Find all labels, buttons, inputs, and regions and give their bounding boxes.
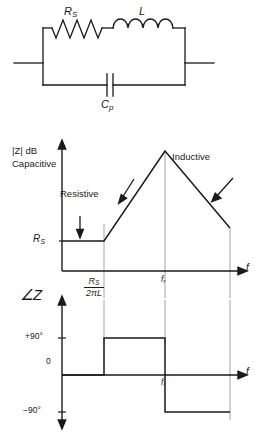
arrow-capacitive-slope-head bbox=[212, 193, 221, 202]
resistor-label: RS bbox=[64, 6, 77, 19]
inductor-label: L bbox=[139, 6, 145, 18]
phase-plot bbox=[58, 296, 247, 429]
resistor-symbol bbox=[52, 20, 102, 38]
magnitude-y-axis-arrow bbox=[58, 140, 65, 149]
magnitude-axes bbox=[58, 140, 247, 275]
inductor-symbol bbox=[113, 19, 173, 28]
magnitude-y-axis-label-magnitude: |Z| dB bbox=[12, 146, 37, 156]
phase-y-axis-label: ∠Z bbox=[20, 287, 42, 303]
magnitude-plot bbox=[58, 140, 247, 298]
magnitude-breakpoint-tick-label: RS 2πL bbox=[84, 276, 104, 300]
capacitor-label: Cp bbox=[101, 99, 113, 112]
magnitude-x-axis-label: f bbox=[246, 263, 249, 274]
magnitude-y-axis-label-capacitive: Capacitive bbox=[12, 159, 56, 169]
magnitude-guide-lines bbox=[104, 151, 230, 298]
arrow-resistive-head bbox=[77, 230, 84, 239]
region-label-resistive: Resistive bbox=[60, 189, 99, 199]
arrow-inductive-slope-shaft bbox=[122, 179, 134, 198]
phase-tick-label-minus90: −90° bbox=[23, 406, 41, 415]
phase-axes bbox=[58, 296, 247, 429]
phase-tick-label-plus90: +90° bbox=[25, 332, 43, 341]
figure-canvas bbox=[0, 0, 267, 445]
magnitude-y-tick-label-rs: RS bbox=[33, 234, 45, 245]
magnitude-annotation-arrows bbox=[77, 178, 233, 238]
impedance-figure: RS L Cp |Z| dB Capacitive Resistive Indu… bbox=[0, 0, 267, 445]
phase-y-axis-arrow-down bbox=[58, 420, 65, 429]
phase-y-axis-arrow-up bbox=[58, 296, 65, 305]
phase-x-axis-label: f bbox=[246, 367, 249, 378]
phase-tick-label-zero: 0 bbox=[46, 357, 51, 366]
arrow-capacitive-slope-shaft bbox=[216, 178, 233, 197]
phase-resonance-tick-label: fr bbox=[161, 378, 165, 388]
magnitude-resonance-tick-label: fr bbox=[161, 275, 165, 285]
phase-guide-lines bbox=[104, 300, 230, 420]
circuit-diagram bbox=[14, 19, 214, 96]
arrow-inductive-slope-head bbox=[119, 195, 127, 204]
region-label-inductive: Inductive bbox=[172, 152, 210, 162]
